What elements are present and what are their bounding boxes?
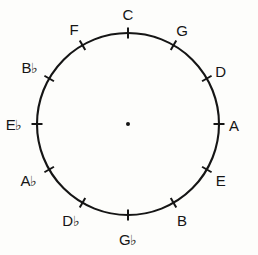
note-label-f: F [69, 22, 78, 37]
note-letter-b: B [177, 211, 187, 228]
note-label-e: E [216, 172, 226, 187]
note-label-e-flat: E♭ [6, 117, 23, 133]
note-label-c: C [123, 7, 134, 22]
flat-sign-icon-d-flat: ♭ [73, 213, 80, 229]
note-letter-f: F [69, 21, 78, 38]
note-letter-g-flat: G [119, 231, 131, 248]
note-letter-d: D [215, 62, 226, 79]
note-letter-c: C [123, 6, 134, 23]
note-label-g-flat: G♭ [119, 232, 137, 248]
note-letter-g: G [176, 22, 188, 39]
note-label-d-flat: D♭ [62, 213, 79, 229]
note-label-d: D [215, 63, 226, 78]
circle-of-fifths-diagram: CGDAEBG♭D♭A♭E♭B♭F [0, 0, 258, 255]
flat-sign-icon-e-flat: ♭ [15, 117, 22, 133]
note-label-a: A [229, 118, 239, 133]
note-label-b-flat: B♭ [21, 60, 38, 76]
note-label-b: B [177, 212, 187, 227]
note-letter-a-flat: A [20, 172, 30, 189]
flat-sign-icon-b-flat: ♭ [31, 60, 38, 76]
note-letter-b-flat: B [21, 59, 31, 76]
note-label-g: G [176, 23, 188, 38]
note-letter-a: A [229, 117, 239, 134]
flat-sign-icon-a-flat: ♭ [30, 173, 37, 189]
center-dot [126, 122, 130, 126]
circle-svg [0, 0, 258, 255]
note-letter-e-flat: E [6, 116, 16, 133]
circle-graphics-layer [32, 28, 225, 221]
note-label-a-flat: A♭ [20, 173, 37, 189]
note-letter-e: E [216, 171, 226, 188]
flat-sign-icon-g-flat: ♭ [130, 232, 137, 248]
